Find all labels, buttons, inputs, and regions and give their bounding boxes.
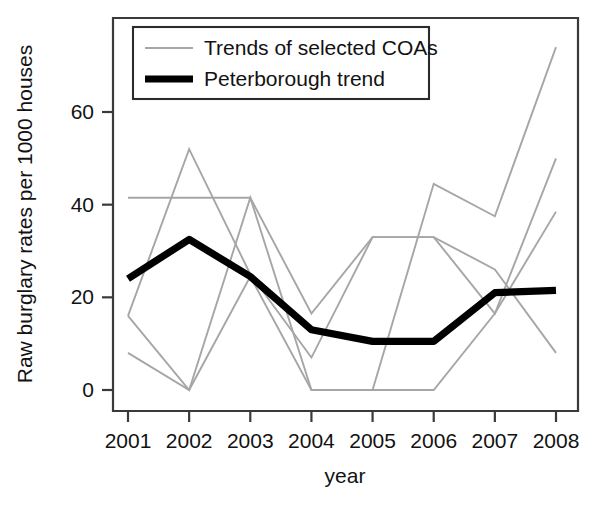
series-line-peterborough-trend (128, 239, 556, 341)
x-axis-title: year (325, 464, 366, 487)
x-tick-label-2007: 2007 (471, 429, 518, 452)
y-tick-label-20: 20 (71, 285, 94, 308)
x-tick-label-2008: 2008 (533, 429, 580, 452)
series-line-coa-2 (128, 158, 556, 313)
series-line-coa-0 (128, 149, 556, 358)
x-tick-label-2004: 2004 (288, 429, 335, 452)
y-tick-label-60: 60 (71, 100, 94, 123)
x-tick-label-2003: 2003 (227, 429, 274, 452)
y-tick-label-0: 0 (82, 378, 94, 401)
legend-label-peterborough: Peterborough trend (204, 67, 385, 90)
x-tick-label-2002: 2002 (166, 429, 213, 452)
x-tick-label-2001: 2001 (105, 429, 152, 452)
x-tick-label-2006: 2006 (410, 429, 457, 452)
y-axis-title: Raw burglary rates per 1000 houses (13, 45, 36, 384)
x-axis: 20012002200320042005200620072008 (105, 411, 580, 452)
legend-label-coa: Trends of selected COAs (204, 36, 438, 59)
burglary-rates-line-chart: 0204060 20012002200320042005200620072008… (0, 0, 605, 507)
chart-container: 0204060 20012002200320042005200620072008… (0, 0, 605, 507)
y-tick-label-40: 40 (71, 193, 94, 216)
x-tick-label-2005: 2005 (349, 429, 396, 452)
y-axis: 0204060 (71, 100, 113, 401)
legend: Trends of selected COAs Peterborough tre… (133, 27, 438, 99)
